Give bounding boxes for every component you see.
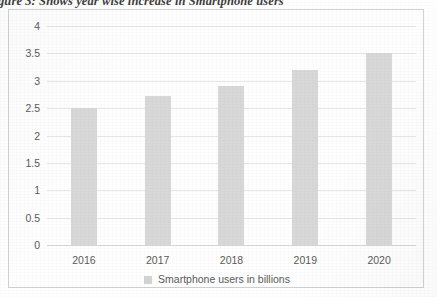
bar [218, 86, 244, 245]
y-axis-tick-label: 2.5 [25, 103, 40, 114]
bar-slot [121, 26, 195, 245]
x-axis-tick-label: 2020 [367, 253, 390, 267]
y-axis-tick-label: 0.5 [25, 212, 40, 223]
x-axis-tick-label: 2016 [72, 253, 95, 267]
bar-slot [268, 26, 342, 245]
bar-series [47, 26, 416, 245]
y-axis-tick-label: 0 [34, 240, 40, 251]
bar-slot [47, 26, 121, 245]
figure-caption-text: Figure 3: Shows year wise increase in Sm… [0, 0, 437, 9]
gridline [47, 245, 416, 246]
bar [145, 96, 171, 245]
chart-legend: Smartphone users in billions [9, 273, 425, 286]
y-axis-tick-label: 3 [34, 75, 40, 86]
x-axis-tick-label: 2017 [146, 253, 169, 267]
y-axis-tick-label: 3.5 [25, 48, 40, 59]
legend-label: Smartphone users in billions [158, 273, 290, 286]
x-axis-tick-label: 2018 [220, 253, 243, 267]
bar [292, 70, 318, 245]
bar [71, 108, 97, 245]
legend-color-swatch [144, 276, 152, 284]
bar-slot [342, 26, 416, 245]
figure-caption: Figure 3: Shows year wise increase in Sm… [0, 0, 437, 9]
y-axis-tick-label: 2 [34, 130, 40, 141]
plot-area: 00.511.522.533.54 [47, 26, 416, 245]
y-axis-tick-label: 4 [34, 21, 40, 32]
bar-slot [195, 26, 269, 245]
y-axis-tick-label: 1 [34, 185, 40, 196]
x-axis-tick-label: 2019 [294, 253, 317, 267]
x-axis-tick-labels: 20162017201820192020 [47, 253, 416, 269]
y-axis-tick-label: 1.5 [25, 157, 40, 168]
chart-container: 00.511.522.533.54 20162017201820192020 S… [8, 9, 424, 288]
bar [366, 53, 392, 245]
